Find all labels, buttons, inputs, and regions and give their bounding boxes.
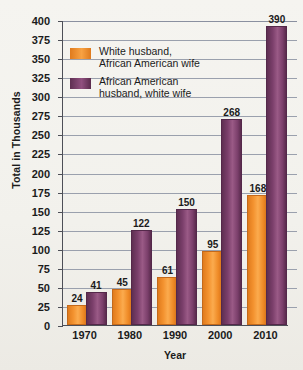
y-axis-tick-label: 25 bbox=[38, 301, 50, 312]
y-axis-tick-label: 50 bbox=[38, 282, 50, 293]
y-axis-tick-label: 100 bbox=[32, 244, 50, 255]
y-axis-tick-label: 150 bbox=[32, 206, 50, 217]
bar-value-label: 168 bbox=[250, 183, 267, 194]
y-axis-tick-label: 75 bbox=[38, 263, 50, 274]
bar[interactable]: 61 bbox=[157, 277, 178, 326]
x-axis-tick-label: 1980 bbox=[118, 329, 142, 341]
bar-value-label: 45 bbox=[117, 277, 128, 288]
y-axis-tick-label: 225 bbox=[32, 149, 50, 160]
x-axis-tick-label: 2010 bbox=[253, 329, 277, 341]
legend-color-swatch bbox=[70, 48, 91, 59]
bar-chart: Total in Thousands 025507510012515017520… bbox=[0, 0, 303, 370]
bar-value-label: 390 bbox=[269, 14, 286, 25]
legend-color-swatch bbox=[70, 78, 91, 89]
bar[interactable]: 150 bbox=[176, 209, 197, 325]
y-axis-tick-label: 250 bbox=[32, 130, 50, 141]
bar[interactable]: 41 bbox=[86, 292, 107, 325]
y-axis-tick-label: 125 bbox=[32, 225, 50, 236]
x-axis-tick-label: 2000 bbox=[208, 329, 232, 341]
x-axis-tick-label: 1990 bbox=[163, 329, 187, 341]
y-axis-tick-label: 350 bbox=[32, 54, 50, 65]
bar-value-label: 24 bbox=[72, 293, 83, 304]
legend-item[interactable]: White husband, African American wife bbox=[70, 46, 230, 69]
y-axis-tick-label: 325 bbox=[32, 73, 50, 84]
x-axis-tick-label: 1970 bbox=[72, 329, 96, 341]
legend-item[interactable]: African American husband, white wife bbox=[70, 76, 230, 99]
y-axis-tick-label: 200 bbox=[32, 168, 50, 179]
bar-value-label: 268 bbox=[223, 107, 240, 118]
bar-value-label: 95 bbox=[207, 239, 218, 250]
bar-group: 168390 bbox=[244, 21, 289, 325]
bar[interactable]: 390 bbox=[266, 26, 287, 325]
bar-value-label: 150 bbox=[178, 197, 195, 208]
bar[interactable]: 168 bbox=[247, 195, 268, 325]
legend-item-label: African American husband, white wife bbox=[99, 76, 191, 99]
y-axis-tick bbox=[58, 326, 63, 327]
x-axis-title: Year bbox=[62, 349, 288, 361]
bar[interactable]: 95 bbox=[202, 251, 223, 325]
y-axis-tick-label: 0 bbox=[44, 321, 50, 332]
bar-value-label: 41 bbox=[91, 280, 102, 291]
y-axis-tick-label: 375 bbox=[32, 35, 50, 46]
bar[interactable]: 24 bbox=[67, 305, 88, 325]
y-axis-tick-label: 175 bbox=[32, 187, 50, 198]
bar-value-label: 122 bbox=[133, 218, 150, 229]
bar[interactable]: 268 bbox=[221, 119, 242, 325]
bar-value-label: 61 bbox=[162, 265, 173, 276]
y-axis-tick-label: 400 bbox=[32, 16, 50, 27]
y-axis-tick-label: 275 bbox=[32, 111, 50, 122]
y-axis-tick-label: 300 bbox=[32, 92, 50, 103]
bar[interactable]: 122 bbox=[131, 230, 152, 325]
bar[interactable]: 45 bbox=[112, 289, 133, 325]
y-axis-tick-labels: 0255075100125150175200225250275300325350… bbox=[0, 0, 58, 370]
x-axis-tick-labels: 19701980199020002010 bbox=[62, 329, 288, 345]
legend: White husband, African American wifeAfri… bbox=[70, 46, 230, 106]
legend-item-label: White husband, African American wife bbox=[99, 46, 200, 69]
